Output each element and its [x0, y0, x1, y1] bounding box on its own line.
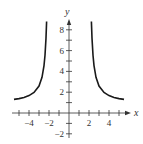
- y-tick-labels: −22468: [54, 25, 64, 139]
- x-tick-label: 2: [87, 118, 92, 128]
- left-branch-curve: [14, 22, 47, 100]
- y-tick-label: 2: [60, 87, 65, 97]
- x-tick-label: 4: [107, 118, 112, 128]
- y-tick-label: 6: [60, 46, 65, 56]
- graph-plot: x y −4−224 −22468: [0, 0, 143, 144]
- y-tick-label: 8: [60, 25, 65, 35]
- y-tick-label: −2: [54, 129, 64, 139]
- y-axis-label: y: [64, 6, 70, 17]
- right-branch-curve: [91, 22, 124, 100]
- x-axis-arrow-icon: [125, 111, 131, 115]
- y-tick-label: 4: [60, 66, 65, 76]
- x-tick-label: −4: [24, 118, 34, 128]
- x-tick-label: −2: [44, 118, 54, 128]
- y-axis-arrow-icon: [67, 19, 71, 25]
- x-axis-label: x: [133, 107, 139, 118]
